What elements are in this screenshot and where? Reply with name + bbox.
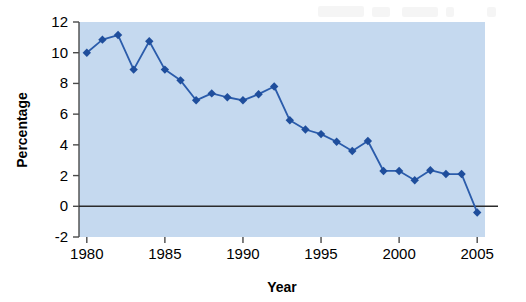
y-tick-label: 2 bbox=[60, 167, 68, 184]
y-tick-label: 4 bbox=[60, 136, 68, 153]
x-tick-label: 2005 bbox=[461, 245, 494, 262]
y-axis-tick-labels: -2024681012 bbox=[51, 13, 68, 245]
x-tick-label: 1985 bbox=[148, 245, 181, 262]
x-tick-label: 1990 bbox=[226, 245, 259, 262]
plot-background bbox=[79, 22, 485, 237]
x-axis-title: Year bbox=[267, 279, 297, 295]
x-axis-tick-labels: 198019851990199520002005 bbox=[70, 245, 494, 262]
y-axis-title: Percentage bbox=[14, 92, 30, 168]
y-tick-label: 10 bbox=[51, 44, 68, 61]
line-chart: -2024681012 198019851990199520002005 Yea… bbox=[0, 0, 526, 302]
x-axis-ticks bbox=[87, 237, 477, 243]
chart-figure: -2024681012 198019851990199520002005 Yea… bbox=[0, 0, 526, 302]
y-tick-label: 8 bbox=[60, 74, 68, 91]
x-tick-label: 1980 bbox=[70, 245, 103, 262]
y-tick-label: -2 bbox=[55, 228, 68, 245]
x-tick-label: 2000 bbox=[382, 245, 415, 262]
y-tick-label: 0 bbox=[60, 197, 68, 214]
y-tick-label: 6 bbox=[60, 105, 68, 122]
y-tick-label: 12 bbox=[51, 13, 68, 30]
y-axis-ticks bbox=[73, 22, 79, 237]
x-tick-label: 1995 bbox=[304, 245, 337, 262]
